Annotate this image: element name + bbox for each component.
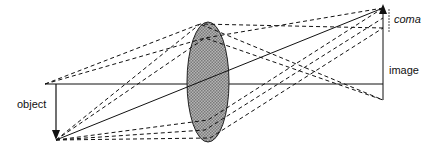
coma-label: coma bbox=[394, 13, 421, 25]
coma-diagram bbox=[0, 0, 432, 152]
coma-blur bbox=[388, 9, 390, 32]
object-label: object bbox=[17, 98, 46, 110]
image-label: image bbox=[389, 64, 419, 76]
lens bbox=[187, 22, 229, 142]
